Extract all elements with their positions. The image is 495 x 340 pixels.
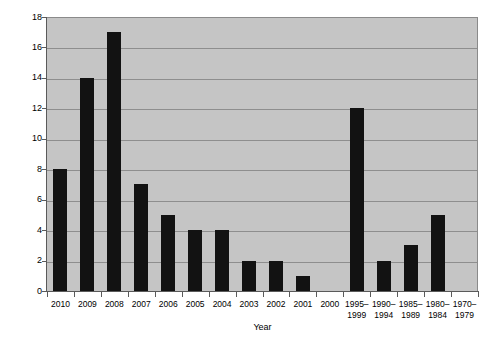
x-axis-tick-mark — [343, 292, 344, 297]
x-axis-tick-mark — [424, 292, 425, 297]
x-axis-tick-mark — [182, 292, 183, 297]
y-axis-tick-mark — [42, 78, 47, 79]
x-axis-tick-mark — [209, 292, 210, 297]
y-axis-tick-mark — [42, 169, 47, 170]
y-axis-tick-mark — [42, 108, 47, 109]
y-axis-tick-mark — [42, 200, 47, 201]
y-axis-tick-label: 8 — [20, 165, 42, 174]
x-axis-tick-mark — [370, 292, 371, 297]
x-axis-tick-mark — [47, 292, 48, 297]
x-axis-tick-mark — [478, 292, 479, 297]
x-axis-tick-mark — [128, 292, 129, 297]
x-axis-title: Year — [47, 322, 478, 332]
x-axis-tick-mark — [451, 292, 452, 297]
bar — [296, 276, 310, 291]
y-axis-tick-labels: 024681012141618 — [20, 17, 42, 291]
y-axis-tick-mark — [42, 47, 47, 48]
bar-chart-figure: Number of references 024681012141618 201… — [0, 0, 495, 340]
bar — [134, 184, 148, 291]
bar — [431, 215, 445, 291]
bar — [215, 230, 229, 291]
bar — [350, 108, 364, 291]
y-axis-tick-mark — [42, 17, 47, 18]
y-axis-tick-label: 2 — [20, 256, 42, 265]
x-axis-tick-mark — [289, 292, 290, 297]
bar — [161, 215, 175, 291]
y-axis-tick-mark — [42, 261, 47, 262]
y-axis-tick-label: 16 — [20, 43, 42, 52]
bar — [188, 230, 202, 291]
plot-area — [47, 17, 478, 291]
bar — [377, 261, 391, 291]
y-axis-tick-label: 4 — [20, 226, 42, 235]
y-axis-tick-label: 18 — [20, 13, 42, 22]
x-axis-tick-mark — [155, 292, 156, 297]
bar — [80, 78, 94, 291]
x-axis-tick-mark — [101, 292, 102, 297]
y-axis-tick-label: 14 — [20, 73, 42, 82]
bar — [269, 261, 283, 291]
x-axis-tick-mark — [316, 292, 317, 297]
y-axis-tick-label: 6 — [20, 195, 42, 204]
bar — [53, 169, 67, 291]
bar — [242, 261, 256, 291]
bar — [404, 245, 418, 291]
x-axis-tick-mark — [236, 292, 237, 297]
x-axis-tick-mark — [263, 292, 264, 297]
x-axis-tick-mark — [74, 292, 75, 297]
bar — [107, 32, 121, 291]
x-axis-tick-mark — [397, 292, 398, 297]
y-axis-tick-mark — [42, 291, 47, 292]
y-axis-tick-label: 12 — [20, 104, 42, 113]
y-axis-tick-mark — [42, 139, 47, 140]
y-axis-tick-label: 10 — [20, 134, 42, 143]
y-axis-tick-label: 0 — [20, 287, 42, 296]
y-axis-tick-mark — [42, 230, 47, 231]
x-axis-tick-label: 1970– 1979 — [445, 299, 485, 320]
